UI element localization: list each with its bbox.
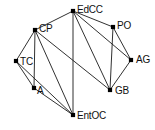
- graph-edge-CP-GB: [35, 30, 110, 90]
- graph-node-label-CP: CP: [39, 24, 53, 34]
- graph-node-TC[interactable]: [14, 59, 18, 63]
- graph-node-label-EntOC: EntOC: [77, 111, 106, 121]
- graph-edge-EdCC-GB: [73, 11, 110, 90]
- graph-edge-PO-GB: [110, 27, 113, 90]
- graph-node-label-AG: AG: [136, 55, 150, 65]
- graph-node-EdCC[interactable]: [71, 9, 75, 13]
- graph-node-A[interactable]: [32, 86, 36, 90]
- graph-node-PO[interactable]: [111, 25, 115, 29]
- graph-node-label-PO: PO: [117, 21, 131, 31]
- graph-node-label-GB: GB: [115, 86, 129, 96]
- graph-node-label-A: A: [37, 86, 43, 96]
- graph-edge-EdCC-AG: [73, 11, 131, 60]
- graph-edge-TC-EntOC: [16, 61, 73, 115]
- graph-node-CP[interactable]: [33, 28, 37, 32]
- graph-edge-PO-AG: [113, 27, 131, 60]
- graph-diagram: EdCCPOCPAGTCAGBEntOC: [0, 0, 155, 130]
- graph-node-label-EdCC: EdCC: [77, 5, 103, 15]
- graph-node-AG[interactable]: [129, 58, 133, 62]
- graph-node-EntOC[interactable]: [71, 113, 75, 117]
- graph-node-label-TC: TC: [20, 57, 33, 67]
- graph-node-GB[interactable]: [108, 88, 112, 92]
